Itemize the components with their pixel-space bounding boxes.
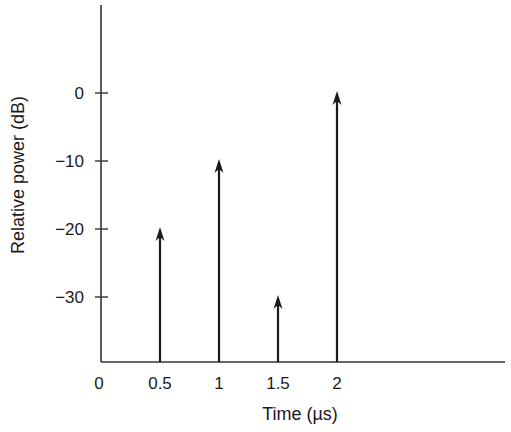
impulse-response-chart: 0−10−20−3000.511.52 Time (µs) Relative p… <box>0 0 511 432</box>
y-tick-label: −20 <box>55 220 84 239</box>
stem <box>274 295 283 362</box>
y-tick-label: −10 <box>55 152 84 171</box>
stem <box>215 159 224 362</box>
stems <box>156 91 342 362</box>
y-tick-label: 0 <box>75 84 84 103</box>
x-tick-label: 0.5 <box>148 374 172 393</box>
x-tick-label: 1 <box>214 374 223 393</box>
axes <box>95 5 505 362</box>
tick-labels: 0−10−20−3000.511.52 <box>55 84 342 393</box>
y-axis-title: Relative power (dB) <box>8 96 28 254</box>
x-tick-label: 0 <box>94 374 103 393</box>
x-axis-title: Time (µs) <box>262 404 338 424</box>
x-tick-label: 2 <box>332 374 341 393</box>
stem <box>156 227 165 362</box>
y-tick-label: −30 <box>55 288 84 307</box>
x-tick-label: 1.5 <box>266 374 290 393</box>
stem <box>333 91 342 362</box>
